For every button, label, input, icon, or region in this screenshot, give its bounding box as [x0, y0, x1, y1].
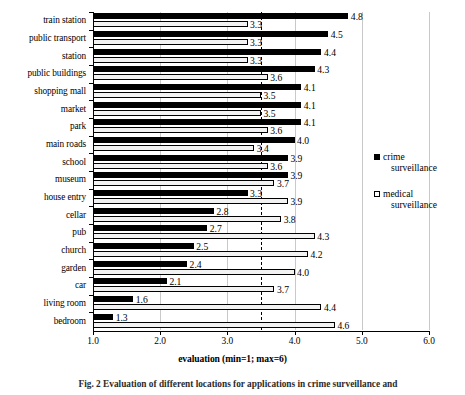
x-tick-mark	[362, 331, 363, 335]
data-label-crime: 2.7	[210, 224, 222, 234]
y-axis-category-label: car	[0, 281, 86, 290]
x-tick-mark	[160, 331, 161, 335]
bar-crime	[93, 102, 301, 108]
x-tick-mark	[295, 331, 296, 335]
y-tick-mark	[89, 136, 93, 137]
x-tick-label: 6.0	[423, 337, 435, 346]
bar-medical	[93, 322, 335, 328]
legend-swatch-medical-icon	[374, 191, 380, 197]
data-label-medical: 3.3	[250, 38, 262, 48]
data-label-medical: 4.2	[311, 250, 323, 260]
y-axis-category-label: bedroom	[0, 317, 86, 326]
y-axis-category-label: school	[0, 158, 86, 167]
bar-medical	[93, 233, 315, 239]
x-tick-label: 4.0	[289, 337, 301, 346]
y-tick-mark	[89, 259, 93, 260]
data-label-crime: 1.3	[116, 313, 128, 323]
data-label-crime: 4.0	[297, 136, 309, 146]
bar-medical	[93, 304, 321, 310]
y-tick-mark	[89, 189, 93, 190]
data-label-medical: 3.7	[277, 179, 289, 189]
x-tick-label: 2.0	[154, 337, 166, 346]
x-tick-label: 3.0	[222, 337, 234, 346]
y-axis-category-label: house entry	[0, 193, 86, 202]
bar-medical	[93, 127, 268, 133]
bar-crime	[93, 278, 167, 284]
bar-medical	[93, 216, 281, 222]
y-axis-category-label: pub	[0, 228, 86, 237]
data-label-medical: 4.4	[324, 303, 336, 313]
bar-medical	[93, 286, 274, 292]
bar-crime	[93, 296, 133, 302]
data-label-medical: 3.8	[284, 215, 296, 225]
bar-crime	[93, 225, 207, 231]
bar-group	[93, 243, 429, 261]
data-label-crime: 4.3	[317, 65, 329, 75]
bar-group	[93, 84, 429, 102]
y-tick-mark	[89, 65, 93, 66]
data-label-medical: 4.6	[337, 321, 349, 331]
bar-crime	[93, 13, 348, 19]
bar-crime	[93, 155, 288, 161]
data-label-medical: 3.6	[270, 162, 282, 172]
bar-group	[93, 314, 429, 332]
y-axis-category-label: public transport	[0, 34, 86, 43]
data-label-crime: 3.3	[250, 189, 262, 199]
bar-group	[93, 119, 429, 137]
y-axis-category-label: train station	[0, 16, 86, 25]
data-label-medical: 3.5	[264, 91, 276, 101]
bar-medical	[93, 145, 254, 151]
bar-medical	[93, 21, 248, 27]
y-tick-mark	[89, 312, 93, 313]
y-tick-mark	[89, 277, 93, 278]
y-tick-mark	[89, 153, 93, 154]
legend-label-crime-line1: crime	[383, 152, 405, 162]
data-label-crime: 4.1	[304, 83, 316, 93]
x-axis-title: evaluation (min=1; max=6)	[0, 353, 465, 364]
legend-label-crime-line2: surveillance	[383, 163, 462, 174]
y-tick-mark	[89, 206, 93, 207]
y-axis-category-label: shopping mall	[0, 87, 86, 96]
data-label-crime: 2.8	[216, 207, 228, 217]
y-tick-mark	[89, 83, 93, 84]
bar-group	[93, 66, 429, 84]
y-axis-category-label: museum	[0, 175, 86, 184]
bar-medical	[93, 251, 308, 257]
figure-caption: Fig. 2 Evaluation of different locations…	[28, 379, 448, 390]
legend-swatch-crime-icon	[374, 154, 380, 160]
y-tick-mark	[89, 242, 93, 243]
y-axis-category-label: public buildings	[0, 69, 86, 78]
data-label-crime: 4.1	[304, 101, 316, 111]
data-label-crime: 3.9	[290, 171, 302, 181]
y-axis-category-label: main roads	[0, 140, 86, 149]
data-label-crime: 2.4	[190, 260, 202, 270]
x-tick-label: 1.0	[87, 337, 99, 346]
data-label-medical: 4.3	[317, 232, 329, 242]
data-label-medical: 3.4	[257, 144, 269, 154]
data-label-crime: 4.4	[324, 48, 336, 58]
data-label-crime: 2.5	[196, 242, 208, 252]
bar-medical	[93, 269, 295, 275]
legend-item-crime: crime surveillance	[374, 152, 462, 175]
bar-medical	[93, 57, 248, 63]
bar-crime	[93, 49, 321, 55]
bar-crime	[93, 172, 288, 178]
bar-group	[93, 261, 429, 279]
y-tick-mark	[89, 47, 93, 48]
bar-group	[93, 102, 429, 120]
data-label-medical: 3.6	[270, 126, 282, 136]
data-label-crime: 1.6	[136, 295, 148, 305]
data-label-crime: 4.1	[304, 118, 316, 128]
data-label-crime: 2.1	[169, 277, 181, 287]
x-tick-mark	[93, 331, 94, 335]
data-label-medical: 3.7	[277, 285, 289, 295]
x-tick-label: 5.0	[356, 337, 368, 346]
data-label-medical: 3.3	[250, 20, 262, 30]
y-axis-category-label: church	[0, 246, 86, 255]
bar-crime	[93, 190, 248, 196]
legend-label-medical-line2: surveillance	[383, 200, 462, 211]
y-axis-category-label: market	[0, 105, 86, 114]
y-tick-mark	[89, 100, 93, 101]
x-tick-mark	[227, 331, 228, 335]
y-axis-category-label: living room	[0, 299, 86, 308]
